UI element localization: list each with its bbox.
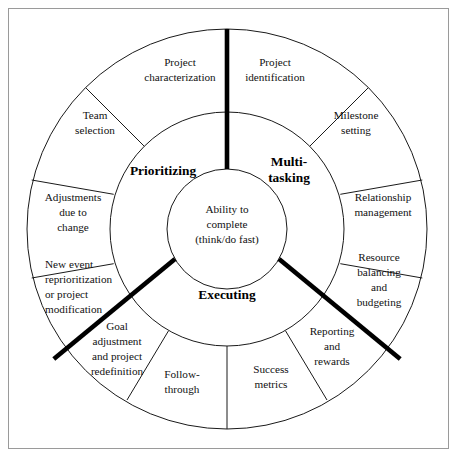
outer-label-adjustments-line1: Adjustments xyxy=(45,191,102,203)
outer-label-resource-balancing-and-budgeting: Resource balancing and budgeting xyxy=(357,251,402,308)
sector-label-executing-line1: Executing xyxy=(198,287,256,302)
outer-label-success-metrics: Success metrics xyxy=(253,363,288,390)
outer-label-resource-line1: Resource xyxy=(358,251,400,263)
outer-label-adjustments-line2: due to xyxy=(59,206,87,218)
outer-label-follow-through: Follow- through xyxy=(164,368,200,395)
outer-label-project-identification-line1: Project xyxy=(259,56,292,68)
outer-label-resource-line3: and xyxy=(371,281,388,293)
outer-label-new-event-line3: or project xyxy=(45,288,89,300)
sector-label-multitasking-line2: tasking xyxy=(268,170,310,185)
outer-label-adjustments-line3: change xyxy=(57,221,89,233)
outer-label-project-identification-line2: identification xyxy=(245,71,305,83)
core-label-line2: complete xyxy=(206,218,247,230)
outer-label-new-event-line1: New event xyxy=(45,258,94,270)
outer-label-new-event-line4: modification xyxy=(45,303,103,315)
outer-label-project-characterization-line2: characterization xyxy=(144,71,216,83)
outer-label-success-metrics-line1: Success xyxy=(253,363,288,375)
wheel-diagram: Prioritizing Multi- tasking Executing Ab… xyxy=(0,0,459,469)
core-label: Ability to complete (think/do fast) xyxy=(195,203,259,246)
sector-label-multitasking-line1: Multi- xyxy=(271,154,307,169)
outer-label-goal-line4: redefinition xyxy=(91,365,144,377)
outer-label-success-metrics-line2: metrics xyxy=(255,378,288,390)
sector-label-prioritizing: Prioritizing xyxy=(130,163,196,178)
core-label-line3: (think/do fast) xyxy=(195,233,259,246)
outer-label-milestone-setting-line1: Milestone xyxy=(334,109,379,121)
outer-label-goal-line2: adjustment xyxy=(92,335,142,347)
core-label-line1: Ability to xyxy=(205,203,249,215)
outer-label-new-event: New event reprioritization or project mo… xyxy=(45,258,113,315)
outer-label-adjustments-due-to-change: Adjustments due to change xyxy=(45,191,102,233)
outer-label-follow-through-line2: through xyxy=(165,383,200,395)
outer-label-relationship-management-line2: management xyxy=(354,206,412,218)
outer-label-new-event-line2: reprioritization xyxy=(45,273,113,285)
outer-label-relationship-management: Relationship management xyxy=(354,191,412,218)
sector-label-prioritizing-line1: Prioritizing xyxy=(130,163,196,178)
outer-label-goal-line1: Goal xyxy=(106,320,128,332)
outer-label-project-identification: Project identification xyxy=(245,56,305,83)
sector-label-executing: Executing xyxy=(198,287,256,302)
outer-label-resource-line2: balancing xyxy=(357,266,401,278)
outer-label-reporting-line2: and xyxy=(324,340,341,352)
outer-label-follow-through-line1: Follow- xyxy=(164,368,200,380)
outer-label-team-selection-line1: Team xyxy=(83,109,108,121)
outer-label-relationship-management-line1: Relationship xyxy=(355,191,412,203)
outer-label-project-characterization: Project characterization xyxy=(144,56,216,83)
outer-label-milestone-setting-line2: setting xyxy=(341,124,371,136)
outer-label-goal-line3: and project xyxy=(92,350,143,362)
outer-label-reporting-and-rewards: Reporting and rewards xyxy=(310,325,355,367)
outer-label-project-characterization-line1: Project xyxy=(164,56,197,68)
outer-label-goal-adjustment: Goal adjustment and project redefinition xyxy=(91,320,144,377)
outer-label-resource-line4: budgeting xyxy=(357,296,402,308)
outer-label-team-selection-line2: selection xyxy=(75,124,115,136)
outer-label-reporting-line1: Reporting xyxy=(310,325,355,337)
outer-label-reporting-line3: rewards xyxy=(314,355,349,367)
outer-label-team-selection: Team selection xyxy=(75,109,115,136)
outer-label-milestone-setting: Milestone setting xyxy=(334,109,379,136)
sector-label-multi-tasking: Multi- tasking xyxy=(268,154,310,185)
